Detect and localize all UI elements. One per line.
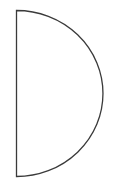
diagram-canvas <box>0 0 121 189</box>
semicircle-figure <box>0 0 121 189</box>
semicircle-shape <box>17 11 103 177</box>
